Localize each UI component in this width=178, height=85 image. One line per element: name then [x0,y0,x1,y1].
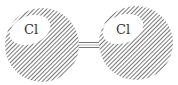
atom-right: Cl [98,6,173,80]
cl2-molecule-diagram: Cl Cl [0,0,178,85]
atom-label-left: Cl [24,22,38,37]
atom-left: Cl [5,8,79,82]
atom-label-right: Cl [116,22,130,37]
